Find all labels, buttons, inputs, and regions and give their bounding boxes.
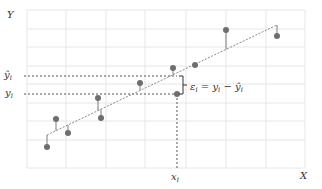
y-axis-label: Y (7, 9, 15, 20)
data-point (274, 33, 280, 39)
grid (27, 10, 305, 168)
guide-lines (24, 76, 177, 168)
data-point (65, 130, 71, 136)
regression-diagram: Y X ŷi yi xi εi = yi − ŷi (0, 0, 322, 189)
data-point (44, 144, 50, 150)
data-point (223, 27, 229, 33)
yi-label: yi (4, 87, 13, 100)
data-point (192, 62, 198, 68)
data-point (170, 65, 176, 71)
regression-line (47, 25, 277, 135)
xi-label: xi (171, 171, 179, 184)
data-point (137, 80, 143, 86)
data-point (98, 115, 104, 121)
x-axis-label: X (299, 170, 308, 181)
data-point (53, 116, 59, 122)
data-point (95, 95, 101, 101)
fitted-line (47, 25, 277, 135)
residual-equation: εi = yi − ŷi (190, 81, 243, 94)
data-points (44, 27, 280, 150)
yhat-label: ŷi (3, 69, 12, 82)
